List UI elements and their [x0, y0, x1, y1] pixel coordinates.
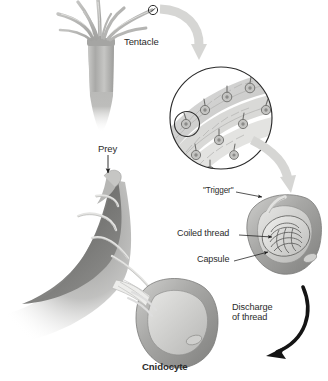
prey	[2, 170, 150, 345]
arrow-tentacle-to-inset	[160, 9, 207, 60]
magnified-circle	[168, 67, 278, 190]
tentacle-crown	[58, 0, 152, 40]
sea-anemone	[58, 0, 158, 133]
discharged-cytoplasm	[148, 290, 208, 355]
label-tentacle: Tentacle	[124, 37, 159, 47]
undischarged-cnidocyte	[247, 195, 322, 274]
trigger-leader	[236, 192, 262, 197]
cnidocyte-diagram	[0, 0, 328, 381]
label-trigger: "Trigger"	[203, 187, 234, 196]
label-discharge-of-thread: Dischargeof thread	[232, 303, 272, 323]
label-coiled-thread: Coiled thread	[177, 229, 229, 239]
discharge-line-2: of thread	[232, 312, 267, 322]
leader-lines	[108, 155, 272, 261]
arrow-discharge	[266, 287, 308, 359]
label-capsule: Capsule	[197, 255, 229, 265]
tentacle-marked	[108, 10, 152, 39]
discharged-cnidocyte	[112, 279, 218, 368]
discharge-line-1: Discharge	[232, 302, 272, 312]
arrow-inset-to-cnidocyte	[252, 140, 296, 193]
label-cnidocyte: Cnidocyte	[142, 362, 187, 372]
label-prey: Prey	[98, 144, 117, 154]
